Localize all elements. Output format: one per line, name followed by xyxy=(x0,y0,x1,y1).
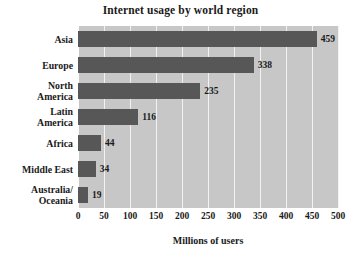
x-tick-250: 250 xyxy=(201,211,215,221)
bar-value-label: 34 xyxy=(96,164,110,174)
bar-row: 338 xyxy=(78,57,338,73)
bar-row: 34 xyxy=(78,161,338,177)
bar-row: 235 xyxy=(78,83,338,99)
bar-value-label: 116 xyxy=(138,112,156,122)
bars-layer: 459338235116443419 xyxy=(78,26,338,208)
category-label: Middle East xyxy=(0,164,73,175)
bar[interactable] xyxy=(78,57,254,73)
bar-value-label: 459 xyxy=(317,34,335,44)
x-tick-150: 150 xyxy=(149,211,163,221)
bar[interactable] xyxy=(78,187,88,203)
chart-container: Internet usage by world region 459338235… xyxy=(0,0,361,259)
x-tick-0: 0 xyxy=(76,211,81,221)
x-axis-label: Millions of users xyxy=(78,235,338,246)
bar[interactable] xyxy=(78,83,200,99)
bar-row: 459 xyxy=(78,31,338,47)
bar-value-label: 235 xyxy=(200,86,218,96)
category-label: Africa xyxy=(0,138,73,149)
x-tick-200: 200 xyxy=(175,211,189,221)
chart-title: Internet usage by world region xyxy=(0,4,361,16)
gridline-500 xyxy=(338,26,339,208)
x-tick-350: 350 xyxy=(253,211,267,221)
category-label: Latin America xyxy=(0,106,73,128)
category-label: Asia xyxy=(0,34,73,45)
category-label: Europe xyxy=(0,60,73,71)
category-axis-labels: AsiaEuropeNorth AmericaLatin AmericaAfri… xyxy=(0,26,73,208)
bar-row: 19 xyxy=(78,187,338,203)
bar[interactable] xyxy=(78,135,101,151)
x-axis-tick-labels: 050100150200250300350400450500 xyxy=(78,211,338,227)
x-tick-100: 100 xyxy=(123,211,137,221)
bar-value-label: 19 xyxy=(88,190,102,200)
x-tick-400: 400 xyxy=(279,211,293,221)
plot-area: 459338235116443419 xyxy=(78,26,338,208)
bar-row: 44 xyxy=(78,135,338,151)
bar-value-label: 338 xyxy=(254,60,272,70)
x-tick-300: 300 xyxy=(227,211,241,221)
x-tick-450: 450 xyxy=(305,211,319,221)
category-label: North America xyxy=(0,80,73,102)
bar-value-label: 44 xyxy=(101,138,115,148)
bar[interactable] xyxy=(78,31,317,47)
x-tick-50: 50 xyxy=(99,211,109,221)
bar-row: 116 xyxy=(78,109,338,125)
bar[interactable] xyxy=(78,161,96,177)
bar[interactable] xyxy=(78,109,138,125)
x-tick-500: 500 xyxy=(331,211,345,221)
category-label: Australia/ Oceania xyxy=(0,184,73,206)
